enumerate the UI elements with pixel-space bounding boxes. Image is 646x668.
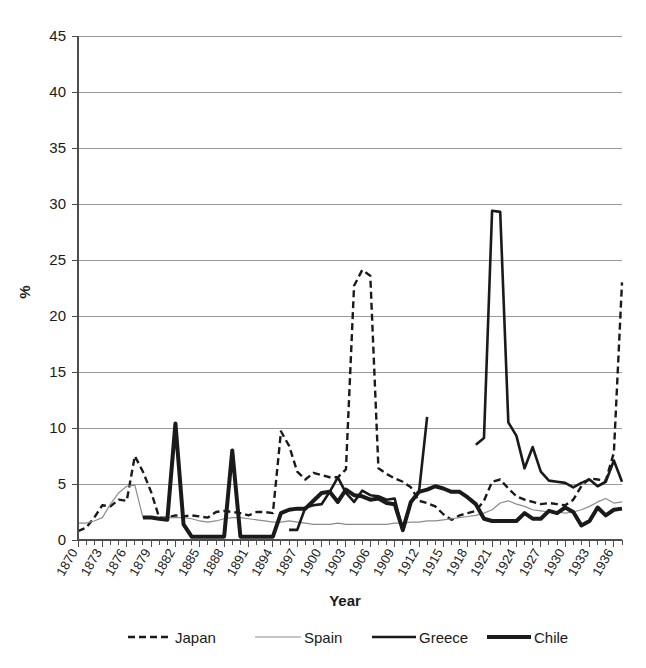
x-tick-label: 1900 [297, 546, 324, 579]
x-tick-label: 1897 [272, 546, 299, 579]
x-tick-label: 1918 [443, 546, 470, 579]
line-chart: 051015202530354045 187018731876187918821… [0, 0, 646, 668]
x-tick-label: 1888 [199, 546, 226, 579]
x-tick-label: 1891 [224, 546, 251, 579]
x-tick-label: 1903 [321, 546, 348, 579]
y-tick-label: 25 [49, 251, 66, 268]
y-tick-label: 30 [49, 195, 66, 212]
x-tick-label: 1924 [492, 546, 519, 579]
x-tick-label: 1894 [248, 546, 275, 579]
x-tick-label: 1870 [53, 546, 80, 579]
x-tick-label: 1936 [589, 546, 616, 579]
x-tick-label: 1906 [345, 546, 372, 579]
legend-label-japan: Japan [175, 629, 216, 646]
legend-label-greece: Greece [419, 629, 468, 646]
x-tick-label: 1873 [78, 546, 105, 579]
x-tick-label: 1921 [467, 546, 494, 579]
x-tick-label: 1933 [565, 546, 592, 579]
y-tick-label: 35 [49, 139, 66, 156]
x-axis-tick-labels: 1870187318761879188218851888189118941897… [53, 546, 616, 579]
x-tick-label: 1879 [126, 546, 153, 579]
y-tick-label: 0 [58, 531, 66, 548]
y-tick-label: 5 [58, 475, 66, 492]
series-line-greece [476, 211, 622, 488]
x-tick-label: 1876 [102, 546, 129, 579]
legend-label-spain: Spain [304, 629, 342, 646]
chart-legend: JapanSpainGreeceChile [128, 629, 568, 646]
y-tick-label: 20 [49, 307, 66, 324]
legend-label-chile: Chile [534, 629, 568, 646]
x-tick-label: 1915 [419, 546, 446, 579]
y-tick-label: 10 [49, 419, 66, 436]
axis-lines [78, 36, 622, 540]
x-tick-label: 1930 [540, 546, 567, 579]
y-tick-label: 15 [49, 363, 66, 380]
y-tick-label: 45 [49, 27, 66, 44]
x-axis-tick-marks [78, 540, 622, 547]
x-axis-title: Year [329, 592, 361, 609]
chart-container: 051015202530354045 187018731876187918821… [0, 0, 646, 668]
y-tick-label: 40 [49, 83, 66, 100]
x-tick-label: 1912 [394, 546, 421, 579]
x-tick-label: 1909 [370, 546, 397, 579]
x-tick-label: 1927 [516, 546, 543, 579]
x-tick-label: 1885 [175, 546, 202, 579]
x-tick-label: 1882 [151, 546, 178, 579]
y-axis-title: % [16, 285, 33, 298]
y-axis-tick-labels: 051015202530354045 [49, 27, 66, 548]
